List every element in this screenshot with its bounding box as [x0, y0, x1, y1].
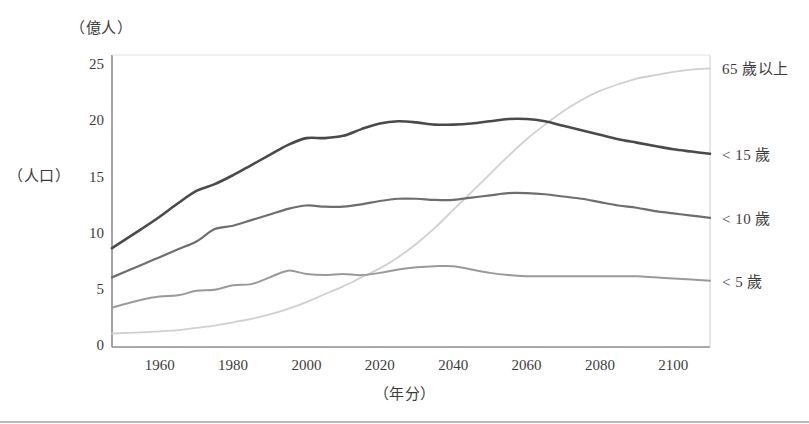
series-line-0 [112, 68, 710, 333]
legend-label-3: < 5 歲 [722, 270, 763, 291]
page-bottom-rule [0, 421, 809, 423]
axis-lines [112, 55, 710, 347]
legend-label-1: < 15 歲 [722, 143, 771, 164]
series-line-3 [112, 266, 710, 308]
series-line-1 [112, 119, 710, 248]
legend-label-2: < 10 歲 [722, 207, 771, 228]
plot-area [0, 0, 809, 424]
population-line-chart: （億人） （人口） （年分） 0510152025 19601980200020… [0, 0, 809, 424]
legend-label-0: 65 歲以上 [722, 57, 789, 78]
series-lines [112, 68, 710, 333]
series-line-2 [112, 193, 710, 277]
